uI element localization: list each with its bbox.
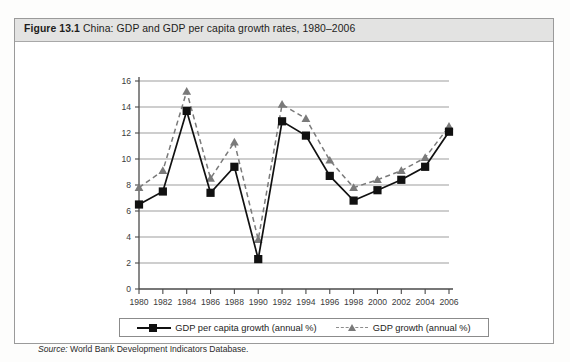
- line-chart: 0246810121416198019821984198619881990199…: [15, 42, 553, 344]
- data-point-triangle: [158, 166, 167, 174]
- figure-caption-text: China: GDP and GDP per capita growth rat…: [83, 23, 355, 34]
- data-point-triangle: [278, 100, 287, 108]
- source-prefix: Source:: [38, 344, 68, 354]
- y-tick-label: 2: [126, 258, 131, 268]
- data-point-triangle: [325, 156, 334, 164]
- legend-label-gdp-growth: GDP growth (annual %): [373, 323, 471, 333]
- x-tick-label: 1988: [225, 297, 244, 307]
- data-point-square: [159, 187, 167, 195]
- legend-swatch-square-solid: [137, 322, 171, 333]
- data-point-triangle: [397, 166, 406, 174]
- data-point-square: [421, 163, 429, 171]
- data-point-square: [278, 117, 286, 125]
- y-tick-label: 12: [121, 128, 131, 138]
- data-point-triangle: [230, 138, 239, 146]
- x-tick-label: 1990: [249, 297, 268, 307]
- x-tick-label: 2004: [416, 297, 435, 307]
- data-point-square: [445, 128, 453, 136]
- data-point-square: [254, 255, 262, 263]
- data-point-triangle: [302, 114, 311, 122]
- x-tick-label: 2006: [439, 297, 458, 307]
- figure-number: Figure 13.1: [24, 23, 80, 34]
- data-point-square: [206, 189, 214, 197]
- y-tick-label: 16: [121, 76, 131, 86]
- y-tick-label: 14: [121, 102, 131, 112]
- x-tick-label: 1984: [177, 297, 196, 307]
- data-point-triangle: [182, 87, 191, 95]
- x-tick-label: 1998: [344, 297, 363, 307]
- data-point-triangle: [421, 153, 430, 161]
- x-tick-label: 1980: [129, 297, 148, 307]
- figure-container: Figure 13.1 China: GDP and GDP per capit…: [14, 18, 554, 344]
- chart-legend: GDP per capita growth (annual %) GDP gro…: [119, 318, 489, 337]
- x-tick-label: 1992: [273, 297, 292, 307]
- legend-label-gdp-per-capita: GDP per capita growth (annual %): [175, 323, 316, 333]
- legend-item-gdp-per-capita: GDP per capita growth (annual %): [137, 322, 316, 333]
- data-point-square: [326, 172, 334, 180]
- data-point-square: [373, 186, 381, 194]
- data-point-square: [397, 176, 405, 184]
- data-point-square: [302, 132, 310, 140]
- x-tick-label: 1994: [296, 297, 315, 307]
- legend-swatch-triangle-dashed: [335, 322, 369, 333]
- y-tick-label: 6: [126, 206, 131, 216]
- y-tick-label: 0: [126, 284, 131, 294]
- x-tick-label: 1986: [201, 297, 220, 307]
- y-tick-label: 8: [126, 180, 131, 190]
- data-point-square: [183, 107, 191, 115]
- figure-page: Figure 13.1 China: GDP and GDP per capit…: [0, 0, 570, 362]
- figure-caption: Figure 13.1 China: GDP and GDP per capit…: [24, 23, 355, 34]
- source-text: World Bank Development Indicators Databa…: [70, 344, 249, 354]
- legend-item-gdp-growth: GDP growth (annual %): [335, 322, 471, 333]
- y-tick-label: 4: [126, 232, 131, 242]
- data-point-square: [135, 200, 143, 208]
- plot-area: 0246810121416198019821984198619881990199…: [15, 42, 553, 344]
- data-point-square: [350, 197, 358, 205]
- x-tick-label: 1982: [153, 297, 172, 307]
- data-point-triangle: [135, 183, 144, 191]
- y-tick-label: 10: [121, 154, 131, 164]
- x-tick-label: 2002: [392, 297, 411, 307]
- x-tick-label: 2000: [368, 297, 387, 307]
- data-point-square: [230, 163, 238, 171]
- source-note: Source: World Bank Development Indicator…: [38, 344, 249, 354]
- x-tick-label: 1996: [320, 297, 339, 307]
